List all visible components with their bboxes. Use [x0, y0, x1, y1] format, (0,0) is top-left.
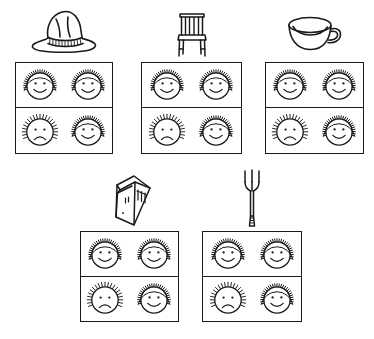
happy-face-svg — [258, 235, 296, 273]
happy-face-svg — [209, 235, 247, 273]
face-option-sad-bottom-left[interactable] — [16, 108, 64, 153]
fork-icon-svg — [241, 168, 263, 230]
face-option-happy-top-right[interactable] — [252, 232, 301, 277]
happy-face-svg — [258, 280, 296, 318]
happy-face-svg — [86, 235, 124, 273]
face-option-happy-bottom-right[interactable] — [130, 277, 179, 322]
face-option-happy-top-left[interactable] — [203, 232, 252, 277]
face-grid-fork — [202, 231, 302, 322]
item-panel-book — [80, 0, 179, 339]
happy-face-svg — [135, 235, 173, 273]
face-option-happy-top-right[interactable] — [315, 63, 364, 108]
happy-face-svg — [320, 112, 358, 150]
face-option-sad-bottom-left[interactable] — [203, 277, 252, 322]
face-option-happy-bottom-right[interactable] — [252, 277, 301, 322]
happy-face-svg — [320, 66, 358, 104]
face-option-happy-top-right[interactable] — [130, 232, 179, 277]
book-icon — [104, 172, 156, 230]
happy-face-svg — [135, 280, 173, 318]
face-option-sad-bottom-left[interactable] — [81, 277, 130, 322]
face-option-happy-top-left[interactable] — [16, 63, 64, 108]
book-icon-svg — [104, 172, 156, 230]
worksheet-page — [0, 0, 374, 339]
face-option-happy-bottom-right[interactable] — [315, 108, 364, 153]
face-option-happy-top-left[interactable] — [81, 232, 130, 277]
face-grid-book — [80, 231, 179, 322]
fork-icon — [241, 168, 263, 230]
sad-face-svg — [209, 280, 247, 318]
sad-face-svg — [21, 112, 59, 150]
sad-face-svg — [86, 280, 124, 318]
item-panel-fork — [202, 0, 302, 339]
happy-face-svg — [21, 66, 59, 104]
